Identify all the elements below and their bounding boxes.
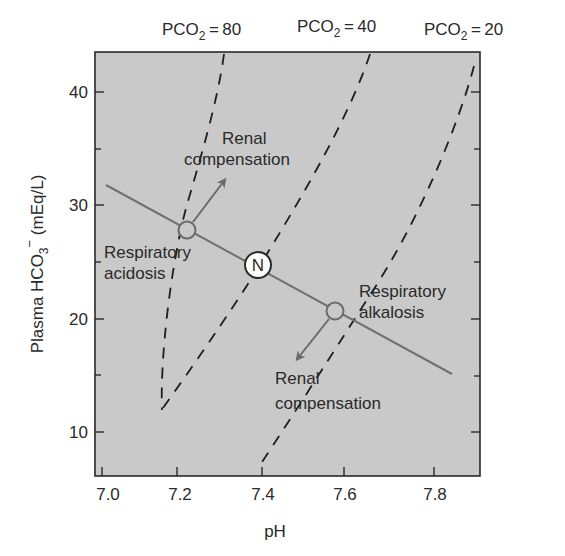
x-axis-label: pH — [264, 522, 286, 541]
x-tick-7.2: 7.2 — [168, 485, 192, 504]
pco2-40-label: PCO2 = 40 — [297, 17, 376, 40]
y-tick-10: 10 — [69, 423, 88, 442]
x-tick-7.8: 7.8 — [423, 485, 447, 504]
acid-base-chart: 40 30 20 10 7.0 7.2 7.4 7.6 7.8 pH Plasm… — [0, 0, 565, 556]
annotation-text: compensation — [275, 394, 381, 413]
annotation-text: Renal — [222, 129, 266, 148]
annotation-text: compensation — [184, 150, 290, 169]
annotation-text: Respiratory — [104, 243, 191, 262]
pco2-80-label: PCO2 = 80 — [162, 20, 241, 43]
annotation-text: alkalosis — [359, 303, 424, 322]
x-tick-7.4: 7.4 — [251, 485, 275, 504]
annotation-text: acidosis — [104, 264, 165, 283]
y-tick-20: 20 — [69, 310, 88, 329]
respiratory-alkalosis-point — [327, 303, 344, 320]
pco2-20-label: PCO2 = 20 — [424, 20, 503, 43]
x-axis-tick-labels: 7.0 7.2 7.4 7.6 7.8 — [96, 485, 447, 504]
x-tick-7.0: 7.0 — [96, 485, 120, 504]
y-tick-40: 40 — [69, 83, 88, 102]
respiratory-acidosis-point — [179, 222, 196, 239]
y-axis-tick-labels: 40 30 20 10 — [69, 83, 88, 442]
normal-point-label: N — [252, 256, 264, 275]
x-tick-7.6: 7.6 — [333, 485, 357, 504]
y-tick-30: 30 — [69, 196, 88, 215]
annotation-text: Respiratory — [359, 282, 446, 301]
annotation-text: Renal — [275, 369, 319, 388]
y-axis-label: Plasma HCO3− (mEq/L) — [22, 175, 51, 354]
